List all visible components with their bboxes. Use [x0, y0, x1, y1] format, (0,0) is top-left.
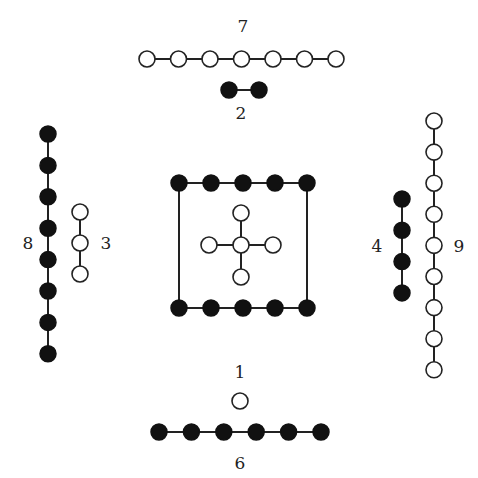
dot-g4-2	[394, 222, 410, 238]
label-1: 1	[235, 362, 246, 382]
dot-g4-3	[394, 254, 410, 270]
dot-g1-1	[232, 393, 248, 409]
dot-g2-1	[221, 82, 237, 98]
dot-g9-2	[426, 144, 442, 160]
dot-g9-8	[426, 331, 442, 347]
dot-g4-1	[394, 191, 410, 207]
dot-g6-2	[183, 424, 199, 440]
dot-g10-1	[171, 175, 187, 191]
dot-g5-2	[201, 237, 217, 253]
dot-g10-9	[267, 300, 283, 316]
dot-g8-1	[40, 126, 56, 142]
dot-g7-5	[265, 51, 281, 67]
dot-g10-3	[235, 175, 251, 191]
label-2: 2	[236, 103, 247, 123]
dot-g10-7	[203, 300, 219, 316]
label-9: 9	[454, 236, 465, 256]
dot-g5-5	[233, 269, 249, 285]
dot-g9-4	[426, 206, 442, 222]
dot-g10-10	[299, 300, 315, 316]
river-diagram: 7 2 8 3 4 9 1 6	[0, 0, 478, 478]
dot-g7-1	[139, 51, 155, 67]
dot-g10-6	[171, 300, 187, 316]
dot-g9-5	[426, 237, 442, 253]
dot-g9-1	[426, 113, 442, 129]
label-6: 6	[235, 453, 246, 473]
dot-g7-2	[171, 51, 187, 67]
dot-g5-1	[233, 205, 249, 221]
dot-g3-2	[72, 235, 88, 251]
dot-g6-5	[281, 424, 297, 440]
dot-g8-6	[40, 283, 56, 299]
dot-g8-8	[40, 346, 56, 362]
dot-g9-7	[426, 300, 442, 316]
dot-g6-1	[151, 424, 167, 440]
dot-g10-2	[203, 175, 219, 191]
dot-g6-4	[248, 424, 264, 440]
label-7: 7	[238, 16, 249, 36]
dot-g4-4	[394, 285, 410, 301]
dot-g6-6	[313, 424, 329, 440]
dot-g8-5	[40, 252, 56, 268]
dot-g7-6	[297, 51, 313, 67]
dot-g7-7	[328, 51, 344, 67]
dot-g8-3	[40, 189, 56, 205]
dot-g7-3	[202, 51, 218, 67]
dot-g7-4	[234, 51, 250, 67]
dot-g10-8	[235, 300, 251, 316]
dot-g5-4	[265, 237, 281, 253]
dot-g9-3	[426, 175, 442, 191]
dot-g3-3	[72, 266, 88, 282]
label-8: 8	[23, 233, 34, 253]
dot-g10-5	[299, 175, 315, 191]
dot-g8-2	[40, 157, 56, 173]
dot-g6-3	[216, 424, 232, 440]
dot-g10-4	[267, 175, 283, 191]
dot-g9-9	[426, 362, 442, 378]
dot-g8-4	[40, 220, 56, 236]
label-3: 3	[101, 233, 112, 253]
dot-g8-7	[40, 314, 56, 330]
label-4: 4	[372, 236, 383, 256]
dot-g2-2	[251, 82, 267, 98]
dot-g5-3	[233, 237, 249, 253]
dot-g9-6	[426, 269, 442, 285]
dot-g3-1	[72, 204, 88, 220]
